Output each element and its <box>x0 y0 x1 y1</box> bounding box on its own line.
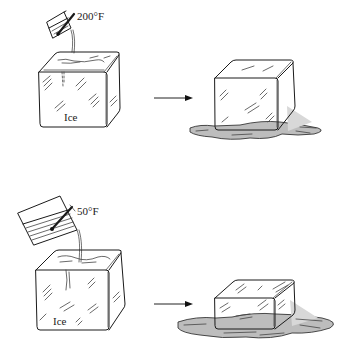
bottom-panel: 50°F Ice <box>18 196 334 338</box>
ice-melting-diagram: 200°F Ice <box>0 0 357 348</box>
water-stream <box>77 230 82 262</box>
temperature-label-200f: 200°F <box>77 10 104 22</box>
temperature-label-50f: 50°F <box>77 205 99 217</box>
thermometer-icon <box>56 14 74 36</box>
ice-block-large <box>39 52 120 127</box>
ice-block-large <box>36 250 125 330</box>
arrow-right-icon <box>154 95 193 101</box>
large-beaker-icon <box>18 196 77 245</box>
melted-ice-block-bottom <box>178 280 334 338</box>
water-stream <box>71 30 75 53</box>
melted-ice-block-top <box>190 60 321 139</box>
ice-label-top: Ice <box>64 111 78 123</box>
top-panel: 200°F Ice <box>39 10 321 139</box>
ice-label-bottom: Ice <box>53 315 67 327</box>
arrow-right-icon <box>154 301 193 307</box>
